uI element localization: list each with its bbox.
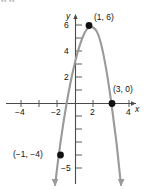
y-tick-label-4: 4 xyxy=(64,47,69,56)
parabola-figure: ▪▪ ▪▪ xyxy=(0,0,145,189)
y-tick-label-6: 6 xyxy=(64,21,69,30)
point-label-3-0: (3, 0) xyxy=(113,85,133,94)
point-label-1-6: (1, 6) xyxy=(94,13,114,22)
point-3-0 xyxy=(109,100,116,107)
y-tick-label-neg5: −5 xyxy=(61,164,71,173)
x-axis-label: x xyxy=(135,105,139,114)
x-tick-label-neg4: −4 xyxy=(15,108,25,117)
point-label-neg1-neg4: (−1, −4) xyxy=(13,150,43,159)
x-tick-label-2: 2 xyxy=(90,108,95,117)
y-axis-arrow xyxy=(73,14,77,19)
curve-left-arrow xyxy=(52,179,59,186)
y-tick-label-2: 2 xyxy=(64,73,69,82)
curve-right-arrow xyxy=(118,179,125,186)
x-tick-label-4: 4 xyxy=(126,108,131,117)
point-neg1-neg4 xyxy=(57,152,64,159)
x-tick-label-neg2: −2 xyxy=(51,108,61,117)
point-vertex-1-6 xyxy=(86,22,93,29)
coordinate-plane xyxy=(0,0,145,189)
